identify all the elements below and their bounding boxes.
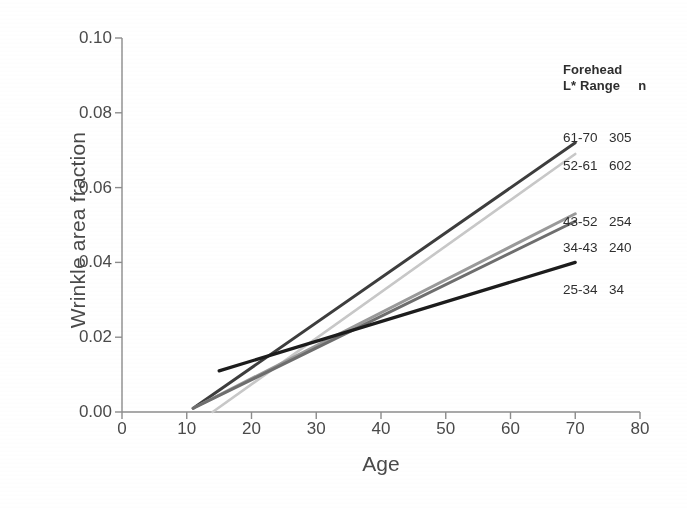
chart-figure: Wrinkle area fraction 0.000.020.040.060.… (0, 0, 687, 508)
legend-n-value: 602 (609, 158, 643, 175)
x-tick-label: 50 (426, 420, 466, 437)
legend-range-label: 25-34 (563, 282, 609, 299)
series-line-25-34 (219, 262, 575, 370)
legend-count-header: n (638, 78, 646, 93)
x-tick-label: 80 (620, 420, 660, 437)
legend-item: 34-43240 (563, 240, 643, 257)
x-tick-label: 30 (296, 420, 336, 437)
legend-title-line1: Forehead (563, 62, 646, 78)
legend-n-value: 305 (609, 130, 643, 147)
x-tick-label: 20 (232, 420, 272, 437)
legend: Forehead L* Rangen 61-7030552-6160243-52… (563, 62, 646, 95)
legend-n-value: 254 (609, 214, 643, 231)
legend-title-line2-row: L* Rangen (563, 78, 646, 94)
x-tick-label: 0 (102, 420, 142, 437)
legend-item: 61-70305 (563, 130, 643, 147)
legend-item: 25-3434 (563, 282, 643, 299)
x-tick-label: 70 (555, 420, 595, 437)
legend-range-label: 43-52 (563, 214, 609, 231)
legend-item: 52-61602 (563, 158, 643, 175)
x-axis-title: Age (122, 452, 640, 476)
x-axis-tick-labels: 01020304050607080 (0, 420, 687, 450)
x-tick-label: 10 (167, 420, 207, 437)
series-line-34-43 (193, 221, 575, 408)
x-tick-label: 60 (491, 420, 531, 437)
legend-range-label: 52-61 (563, 158, 609, 175)
x-tick-label: 40 (361, 420, 401, 437)
series-line-61-70 (193, 143, 575, 409)
legend-item: 43-52254 (563, 214, 643, 231)
legend-range-label: 34-43 (563, 240, 609, 257)
legend-n-value: 240 (609, 240, 643, 257)
legend-title-line2: L* Range (563, 78, 620, 93)
legend-range-label: 61-70 (563, 130, 609, 147)
legend-n-value: 34 (609, 282, 643, 299)
